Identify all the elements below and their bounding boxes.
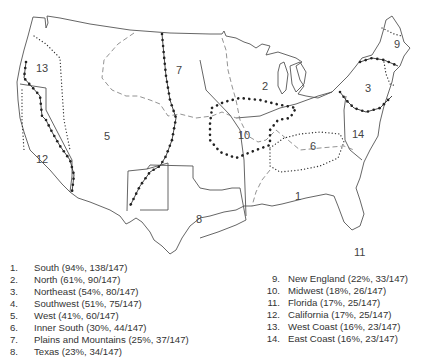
state-border	[20, 84, 72, 192]
legend-item: 6.Inner South (30%, 44/147)	[10, 322, 189, 334]
bead-marker	[376, 58, 379, 61]
bead-marker	[50, 129, 53, 132]
legend-number: 9.	[258, 273, 280, 285]
legend-label: West (41%, 60/147)	[34, 310, 119, 322]
legend-left: 1.South (94%, 138/147)2.North (61%, 90/1…	[10, 262, 189, 358]
inner-south-dotted	[270, 132, 344, 172]
bead-marker	[378, 107, 381, 110]
bead-marker	[164, 156, 167, 159]
map-label-3: 3	[365, 82, 371, 94]
legend-label: California (17%, 25/147)	[288, 309, 391, 321]
us-map: 1 2 3 5 6 7 8 9 10 11 12 13 14	[0, 0, 423, 260]
bead-marker	[36, 92, 39, 95]
legend-item: 2.North (61%, 90/147)	[10, 274, 189, 286]
bead-marker	[71, 166, 74, 169]
bead-marker	[72, 177, 75, 180]
legend-item: 8.Texas (23%, 34/147)	[10, 346, 189, 358]
bead-marker	[72, 172, 75, 175]
map-label-9: 9	[394, 38, 400, 50]
legend-item: 5.West (41%, 60/147)	[10, 310, 189, 322]
bead-marker	[165, 75, 168, 78]
bead-marker	[144, 177, 147, 180]
bead-marker	[166, 150, 169, 153]
bead-marker	[361, 109, 364, 112]
bead-marker	[167, 86, 170, 89]
texas-border	[127, 165, 246, 238]
plains-beaded-line	[130, 34, 176, 206]
bead-marker	[171, 139, 174, 142]
legend-number: 6.	[10, 322, 34, 334]
west-coast-beaded-line	[24, 62, 74, 192]
bead-marker	[130, 203, 133, 206]
bead-marker	[169, 144, 172, 147]
bead-marker	[364, 59, 367, 62]
bead-marker	[342, 96, 345, 99]
bead-marker	[170, 104, 173, 107]
bead-marker	[162, 45, 165, 48]
legend-item: 9.New England (22%, 33/147)	[258, 273, 408, 285]
legend-label: Plains and Mountains (25%, 37/147)	[34, 334, 189, 346]
map-label-2: 2	[262, 80, 268, 92]
south-boundary-2	[252, 170, 270, 206]
bead-marker	[71, 189, 74, 192]
map-label-8: 8	[196, 213, 202, 225]
california-dotted	[22, 90, 24, 150]
bead-marker	[367, 110, 370, 113]
legend-label: North (61%, 90/147)	[34, 274, 120, 286]
legend-label: Southwest (51%, 75/147)	[34, 298, 142, 310]
legend-label: Inner South (30%, 44/147)	[34, 322, 147, 334]
michigan-peninsula	[290, 62, 306, 92]
bead-marker	[383, 103, 386, 106]
bead-marker	[148, 172, 151, 175]
bead-marker	[387, 99, 390, 102]
legend-item: 10.Midwest (18%, 26/147)	[258, 285, 408, 297]
bead-marker	[24, 78, 27, 81]
bead-marker	[169, 98, 172, 101]
bead-marker	[152, 169, 155, 172]
bead-marker	[24, 67, 27, 70]
bead-marker	[141, 182, 144, 185]
bead-marker	[40, 108, 43, 111]
legend-label: New England (22%, 33/147)	[288, 273, 408, 285]
legend-label: West Coast (16%, 23/147)	[288, 321, 400, 333]
map-label-5: 5	[104, 130, 110, 142]
legend-number: 14.	[258, 333, 280, 345]
bead-marker	[59, 145, 62, 148]
bead-marker	[370, 57, 373, 60]
legend-number: 2.	[10, 274, 34, 286]
legend-label: Texas (23%, 34/147)	[34, 346, 122, 358]
bead-marker	[138, 187, 141, 190]
bead-marker	[25, 61, 28, 64]
bead-marker	[45, 119, 48, 122]
legend-item: 7.Plains and Mountains (25%, 37/147)	[10, 334, 189, 346]
bead-marker	[168, 92, 171, 95]
map-label-6: 6	[310, 140, 316, 152]
bead-marker	[41, 114, 44, 117]
bead-marker	[163, 63, 166, 66]
map-label-14: 14	[352, 128, 364, 140]
bead-marker	[132, 198, 135, 201]
bead-marker	[23, 73, 26, 76]
legend-item: 13.West Coast (16%, 23/147)	[258, 321, 408, 333]
bead-marker	[161, 39, 164, 42]
bead-marker	[69, 160, 72, 163]
legend-number: 13.	[258, 321, 280, 333]
legend-item: 4.Southwest (51%, 75/147)	[10, 298, 189, 310]
bead-markers	[23, 33, 395, 206]
bead-marker	[387, 61, 390, 64]
bead-marker	[355, 108, 358, 111]
bead-marker	[359, 61, 362, 64]
legend-label: Northeast (54%, 80/147)	[34, 286, 139, 298]
legend-number: 5.	[10, 310, 34, 322]
legend-label: East Coast (16%, 23/147)	[288, 333, 398, 345]
bead-marker	[172, 133, 175, 136]
legend-number: 1.	[10, 262, 34, 274]
legend-label: Florida (17%, 25/147)	[288, 297, 380, 309]
bead-marker	[164, 69, 167, 72]
bead-marker	[72, 183, 75, 186]
legend-label: South (94%, 138/147)	[34, 262, 127, 274]
bead-marker	[56, 140, 59, 143]
bead-marker	[32, 87, 35, 90]
bead-marker	[66, 155, 69, 158]
map-label-10: 10	[238, 129, 250, 141]
